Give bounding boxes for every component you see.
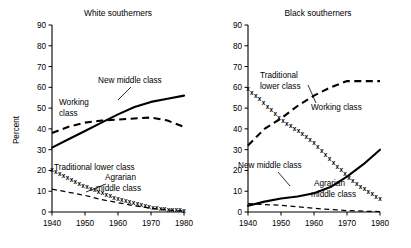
series-annotation-4: Agrarian — [105, 173, 136, 182]
figure-two-panel-class-structure: White southerners Percent 01020304050607… — [0, 0, 411, 248]
y-tick-label: 90 — [233, 21, 243, 30]
x-tick-label: 1960 — [109, 219, 128, 228]
y-tick-label: 50 — [233, 104, 243, 113]
x-tick-label: 1940 — [43, 219, 62, 228]
x-tick-label: 1960 — [305, 219, 324, 228]
series-annotation-0: New middle class — [98, 76, 162, 85]
x-tick-label: 1970 — [338, 219, 357, 228]
svg-text:x: x — [182, 207, 186, 214]
x-tick-label: 1980 — [371, 219, 390, 228]
y-tick-label: 40 — [233, 125, 243, 134]
series-annotation-4: Agrarian — [314, 179, 345, 188]
x-tick-label: 1980 — [175, 219, 194, 228]
chart-title-right: Black southerners — [284, 8, 351, 18]
y-tick-labels-right: 0102030405060708090 — [233, 21, 243, 217]
x-tick-label: 1950 — [272, 219, 291, 228]
chart-white-southerners: White southerners Percent 01020304050607… — [0, 0, 205, 248]
leader-line-0 — [118, 87, 131, 100]
series-annotation-2: Working class — [311, 103, 362, 112]
chart-title-left: White southerners — [84, 8, 152, 18]
y-tick-label: 10 — [233, 187, 243, 196]
series-3-line — [248, 204, 380, 212]
y-tick-label: 20 — [37, 166, 47, 175]
svg-text:x: x — [378, 195, 382, 202]
y-tick-label: 40 — [37, 125, 47, 134]
series-annotation-2: class — [59, 109, 78, 118]
y-tick-label: 0 — [41, 208, 46, 217]
y-tick-label: 60 — [233, 83, 243, 92]
y-tick-label: 80 — [233, 42, 243, 51]
y-tick-label: 30 — [233, 146, 243, 155]
y-tick-label: 30 — [37, 146, 47, 155]
y-tick-label: 70 — [233, 63, 243, 72]
y-tick-label: 10 — [37, 187, 47, 196]
y-axis-label: Percent — [12, 115, 21, 144]
series-annotation-1: Working — [59, 98, 89, 107]
panel-black-southerners: Black southerners 0102030405060708090 19… — [206, 0, 411, 248]
y-tick-label: 70 — [37, 63, 47, 72]
series-1-line — [52, 117, 184, 133]
x-tick-labels-right: 19401950196019701980 — [239, 219, 390, 228]
y-tick-labels-left: 0102030405060708090 — [37, 21, 47, 217]
y-tick-label: 0 — [237, 208, 242, 217]
y-tick-label: 80 — [37, 42, 47, 51]
x-tick-label: 1950 — [76, 219, 95, 228]
series-annotation-5: middle class — [96, 184, 141, 193]
x-tick-label: 1970 — [142, 219, 161, 228]
leader-line-1 — [278, 172, 290, 186]
x-tick-labels-left: 19401950196019701980 — [43, 219, 194, 228]
leader-line-0 — [308, 85, 316, 103]
y-tick-label: 50 — [37, 104, 47, 113]
series-annotation-5: middle class — [311, 190, 356, 199]
series-annotation-3: Traditional lower class — [54, 163, 135, 172]
x-tick-label: 1940 — [239, 219, 258, 228]
series-annotation-0: Traditional — [260, 71, 298, 80]
panel-white-southerners: White southerners Percent 01020304050607… — [0, 0, 205, 248]
y-tick-label: 90 — [37, 21, 47, 30]
y-tick-label: 60 — [37, 83, 47, 92]
series-annotation-3: New middle class — [238, 161, 302, 170]
series-annotation-1: lower class — [260, 82, 301, 91]
chart-black-southerners: Black southerners 0102030405060708090 19… — [206, 0, 411, 248]
